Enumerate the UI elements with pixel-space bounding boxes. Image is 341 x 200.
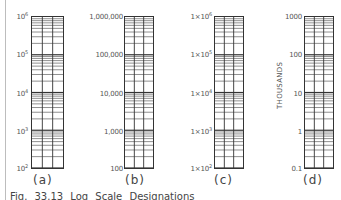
figure-caption: Fig. 33.13 Log Scale Designations xyxy=(10,191,194,200)
unit-label-thousands: THOUSANDS xyxy=(276,65,284,109)
tick-c-2: 1×104 xyxy=(191,88,212,98)
log-grid-b xyxy=(124,16,154,169)
tick-b-2: 10,000 xyxy=(100,88,123,98)
tick-c-4: 1×102 xyxy=(191,163,212,173)
tick-c-0: 1×106 xyxy=(191,11,212,21)
log-grid-c xyxy=(214,16,244,169)
tick-b-0: 1,000,000 xyxy=(89,11,123,21)
log-grid-d xyxy=(304,16,334,169)
tick-c-3: 1×103 xyxy=(191,126,212,136)
grid-lines xyxy=(215,17,243,168)
panel-c: 1×106 1×105 1×104 1×103 1×102 (c) xyxy=(170,0,255,200)
grid-lines xyxy=(125,17,153,168)
tick-a-4: 102 xyxy=(17,163,29,173)
tick-a-1: 105 xyxy=(17,49,29,59)
tick-d-2: 10 xyxy=(293,88,302,98)
tick-b-4: 100 xyxy=(110,163,123,173)
panel-b: 1,000,000 100,000 10,000 1,000 100 (b) xyxy=(85,0,170,200)
tick-d-3: 1 xyxy=(298,126,302,136)
tick-a-0: 106 xyxy=(17,11,29,21)
grid-lines xyxy=(32,17,63,168)
tick-d-1: 100 xyxy=(289,49,302,59)
panel-label-b: (b) xyxy=(125,173,145,187)
tick-c-1: 1×105 xyxy=(191,49,212,59)
grid-lines xyxy=(305,17,333,168)
tick-b-1: 100,000 xyxy=(95,49,123,59)
log-grid-a xyxy=(31,16,64,169)
tick-d-4: 0.1 xyxy=(291,163,302,173)
panel-label-d: (d) xyxy=(303,173,323,187)
panel-label-c: (c) xyxy=(214,173,233,187)
panel-d: THOUSANDS 1000 100 10 1 0.1 (d) xyxy=(255,0,341,200)
panel-label-a: (a) xyxy=(33,173,53,187)
tick-b-3: 1,000 xyxy=(104,126,123,136)
tick-a-3: 103 xyxy=(17,126,29,136)
tick-d-0: 1000 xyxy=(285,11,302,21)
tick-a-2: 104 xyxy=(17,88,29,98)
panel-a: 106 105 104 103 102 (a) xyxy=(0,0,85,200)
